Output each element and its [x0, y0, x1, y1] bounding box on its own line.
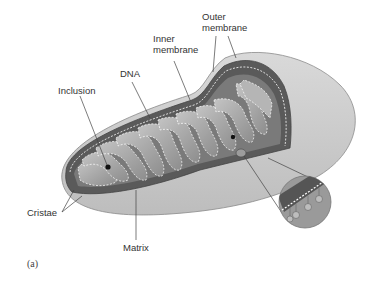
- label-outer-membrane-line2: membrane: [202, 22, 247, 33]
- leader-inner-membrane: [174, 61, 190, 100]
- label-inner-membrane: Inner membrane: [153, 33, 198, 55]
- label-inner-membrane-line1: Inner: [153, 33, 198, 44]
- label-inner-membrane-line2: membrane: [153, 44, 198, 55]
- panel-label: (a): [27, 258, 38, 269]
- label-cristae: Cristae: [27, 207, 57, 218]
- leader-outer-membrane-b: [228, 36, 236, 58]
- label-matrix: Matrix: [123, 242, 149, 253]
- label-inclusion: Inclusion: [58, 85, 96, 96]
- label-outer-membrane: Outer membrane: [202, 11, 247, 33]
- label-outer-membrane-line1: Outer: [202, 11, 247, 22]
- label-dna: DNA: [120, 68, 140, 79]
